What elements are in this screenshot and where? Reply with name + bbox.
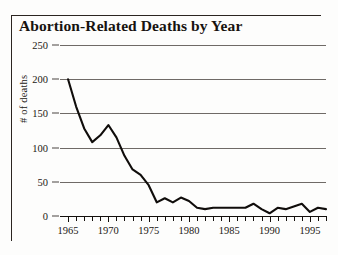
series-chart [60,45,326,216]
y-tick-mark-50 [52,181,59,182]
x-tick-label-1965: 1965 [58,225,79,236]
x-tick-label-1980: 1980 [178,225,199,236]
x-tick-label-1995: 1995 [299,225,320,236]
series-line-deaths [68,79,326,213]
x-tick-label-1990: 1990 [259,225,280,236]
y-tick-mark-200 [52,79,59,80]
y-tick-mark-250 [52,45,59,46]
x-tick-label-1975: 1975 [138,225,159,236]
x-axis-line [60,216,326,217]
y-tick-mark-0 [52,216,59,217]
x-tick-label-1985: 1985 [219,225,240,236]
plot-area: # of deaths 050100150200250 196519701975… [60,45,326,216]
x-tick-1997 [326,216,327,221]
y-tick-label-0: 0 [43,211,48,222]
y-axis-title: # of deaths [18,75,29,123]
y-tick-mark-150 [52,113,59,114]
y-tick-label-200: 200 [32,74,48,85]
y-tick-label-50: 50 [38,176,49,187]
y-tick-mark-100 [52,147,59,148]
figure-container: Abortion-Related Deaths by Year # of dea… [0,0,338,255]
y-tick-label-100: 100 [32,142,48,153]
page-title: Abortion-Related Deaths by Year [19,17,242,35]
y-tick-label-150: 150 [32,108,48,119]
y-tick-label-250: 250 [32,40,48,51]
x-tick-label-1970: 1970 [98,225,119,236]
